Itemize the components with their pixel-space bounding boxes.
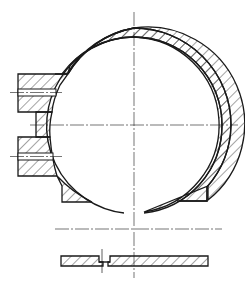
left-web xyxy=(36,112,52,137)
strip-right xyxy=(108,256,208,266)
technical-drawing xyxy=(0,0,245,287)
left-foot xyxy=(57,176,92,202)
strip-section xyxy=(61,249,208,273)
strip-left xyxy=(61,256,103,266)
